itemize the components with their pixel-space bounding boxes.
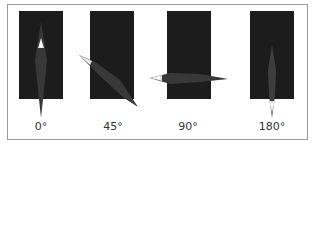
label-180deg: 180° [242, 120, 302, 133]
